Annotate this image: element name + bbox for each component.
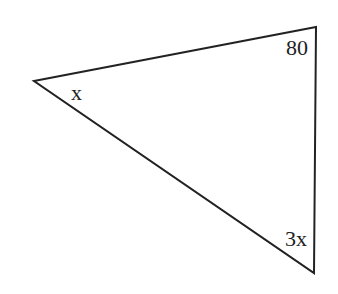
angle-label-left: x [71, 80, 82, 105]
angle-label-bottom-right: 3x [285, 226, 307, 251]
angle-label-top-right: 80 [286, 35, 308, 60]
triangle-shape [34, 27, 316, 273]
triangle-diagram: x 80 3x [0, 0, 338, 294]
